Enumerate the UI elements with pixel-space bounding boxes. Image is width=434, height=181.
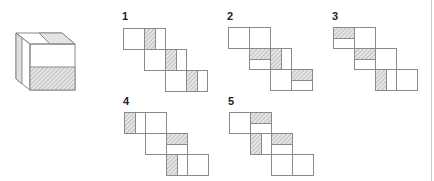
net-shaded-region [292,70,313,81]
option-5[interactable]: 5 [228,95,314,176]
reference-cube [16,33,75,90]
net-shaded-region [334,28,355,39]
net-square [124,29,145,50]
net-shaded-region [250,49,271,60]
net-square [293,155,314,176]
net-shaded-region [187,71,198,92]
net-shaded-region [251,134,262,155]
net-square [146,134,167,155]
net-shaded-region [272,134,293,145]
net-square [145,50,166,71]
net-shaded-region [167,155,178,176]
option-label: 4 [123,95,130,107]
option-1[interactable]: 1 [122,10,208,92]
net-shaded-region [271,49,282,70]
net-square [146,113,167,134]
net-shaded-region [376,70,387,91]
net-square [229,28,250,49]
net-shaded-region [167,134,188,145]
net-square [166,71,187,92]
net-shaded-region [355,49,376,60]
net-square [230,113,251,134]
net-square [376,49,397,70]
net-square [272,155,293,176]
option-label: 2 [227,10,233,22]
net-square [397,70,418,91]
page-edge-divider [431,0,432,181]
net-shaded-region [166,50,177,71]
option-label: 1 [122,10,128,22]
cube-left-face-shaded-strip [16,33,22,84]
net-square [250,28,271,49]
cube-front-face-hatched-half [30,67,75,90]
option-label: 3 [332,10,338,22]
option-3[interactable]: 3 [332,10,418,91]
cube-net-puzzle: 12345 [0,0,434,181]
net-square [188,155,209,176]
net-shaded-region [251,113,272,124]
net-shaded-region [145,29,156,50]
option-4[interactable]: 4 [123,95,209,176]
option-label: 5 [228,95,234,107]
net-square [271,70,292,91]
option-2[interactable]: 2 [227,10,313,91]
answer-options: 12345 [122,10,418,176]
cube-top-face-shaded-half [39,33,75,44]
net-shaded-region [125,113,136,134]
puzzle-canvas: 12345 [0,0,434,181]
net-square [355,28,376,49]
